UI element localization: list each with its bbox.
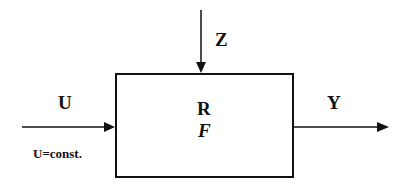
block-label-f: F	[198, 121, 211, 140]
output-arrow-y	[293, 122, 389, 132]
label-y: Y	[327, 93, 341, 112]
block-label-r: R	[197, 99, 211, 118]
input-arrow-u	[22, 122, 115, 132]
label-u: U	[58, 93, 72, 112]
label-z: Z	[215, 30, 228, 49]
label-u-const: U=const.	[33, 147, 82, 160]
disturbance-arrow-z	[196, 10, 206, 73]
